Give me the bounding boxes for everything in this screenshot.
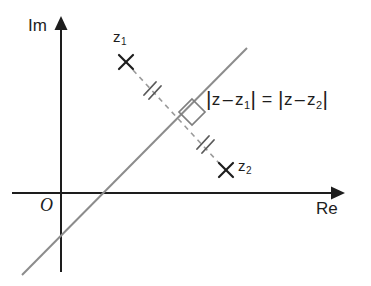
equation-right-var2: z — [307, 90, 316, 109]
point-label-z2-subscript: 2 — [246, 165, 252, 176]
perpendicular-bisector-line — [22, 48, 247, 275]
point-label-z2-var: z — [238, 157, 246, 174]
imaginary-axis-label: Im — [28, 17, 47, 34]
right-arrow-axis-icon — [331, 187, 345, 200]
diagram-canvas — [0, 0, 371, 286]
equation-left-minus: – — [223, 89, 233, 109]
equation-equals: = — [262, 89, 273, 109]
point-label-z2: z2 — [238, 158, 251, 173]
modulus-bar-open-right: | — [278, 87, 284, 110]
point-label-z1-var: z — [113, 28, 121, 45]
equation-right-minus: – — [295, 89, 305, 109]
cross-marker-icon-z1 — [119, 55, 133, 69]
imaginary-axis — [55, 16, 68, 272]
point-label-z1: z1 — [113, 29, 126, 44]
modulus-bar-close-right: | — [322, 87, 328, 110]
origin-label: O — [40, 196, 53, 214]
equation-left-var: z — [212, 90, 221, 109]
cross-marker-icon-z2 — [219, 163, 233, 177]
tick-mark-lower — [197, 136, 214, 153]
up-arrow-axis-icon — [55, 16, 68, 30]
real-axis-label: Re — [316, 200, 338, 217]
equation-left-var2: z — [235, 90, 244, 109]
equation-right-var: z — [284, 90, 293, 109]
equation-annotation: |z – z1| = |z – z2| — [206, 87, 328, 108]
modulus-bar-open-left: | — [206, 87, 212, 110]
argand-diagram-figure: Im Re O z1 z2 |z – z1| = |z – z2| — [0, 0, 371, 286]
modulus-bar-close-left: | — [250, 87, 256, 110]
point-label-z1-subscript: 1 — [121, 36, 127, 47]
